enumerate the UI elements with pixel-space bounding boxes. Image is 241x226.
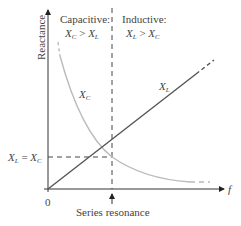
- x-axis-label: f: [228, 183, 231, 195]
- y-axis-label: Reactance: [35, 15, 47, 60]
- xl-line-dashed: [196, 60, 214, 74]
- xc-curve-dashed-start: [58, 42, 60, 56]
- capacitive-title: Capacitive:: [60, 13, 110, 25]
- capacitive-condition: XC > XL: [65, 27, 99, 43]
- xl-label: XL: [159, 80, 170, 96]
- xc-curve: [60, 56, 190, 182]
- inductive-condition: XL > XC: [126, 27, 160, 43]
- inductive-title: Inductive:: [122, 13, 167, 25]
- xl-line: [48, 74, 196, 189]
- resonance-label: Series resonance: [76, 206, 150, 218]
- xc-label: XC: [79, 88, 90, 104]
- origin-label: 0: [45, 196, 51, 208]
- intersection-label: XL = XC: [8, 151, 42, 167]
